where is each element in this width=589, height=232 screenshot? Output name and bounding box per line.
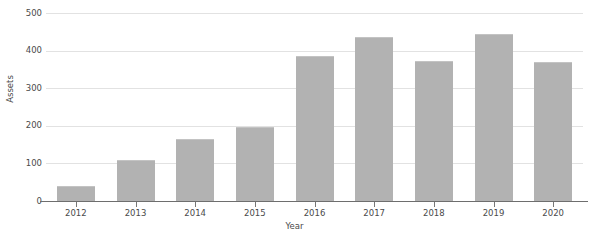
y-axis-tick-label: 400	[8, 46, 42, 55]
bar-chart: Assets 0100200300400500 Year 20122013201…	[0, 0, 589, 232]
bar[interactable]	[57, 186, 95, 201]
x-axis-tick	[255, 202, 256, 207]
x-axis-tick	[434, 202, 435, 207]
bar[interactable]	[236, 127, 274, 201]
x-axis-tick	[315, 202, 316, 207]
bar[interactable]	[534, 62, 572, 201]
y-axis-tick-labels: 0100200300400500	[0, 13, 42, 201]
bar[interactable]	[176, 139, 214, 201]
bar[interactable]	[117, 160, 155, 201]
x-axis-tick-label: 2018	[423, 208, 445, 218]
x-axis-tick	[374, 202, 375, 207]
y-axis-tick-label: 500	[8, 9, 42, 18]
bar[interactable]	[355, 37, 393, 201]
y-axis-tick-label: 100	[8, 159, 42, 168]
y-axis-tick-label: 300	[8, 84, 42, 93]
x-axis-tick-label: 2017	[363, 208, 385, 218]
bar[interactable]	[296, 56, 334, 201]
x-axis-tick	[494, 202, 495, 207]
x-axis-tick	[136, 202, 137, 207]
x-axis-tick-label: 2016	[304, 208, 326, 218]
chart-title	[0, 0, 589, 2]
y-axis-tick-label: 200	[8, 121, 42, 130]
y-axis-tick-label: 0	[8, 197, 42, 206]
x-axis-tick	[76, 202, 77, 207]
x-axis-tick-label: 2015	[244, 208, 266, 218]
x-axis-tick-label: 2013	[125, 208, 147, 218]
bar[interactable]	[415, 61, 453, 201]
bar-series	[46, 13, 583, 201]
x-axis-tick-label: 2014	[184, 208, 206, 218]
x-axis-tick-label: 2019	[483, 208, 505, 218]
x-axis-title: Year	[0, 221, 589, 231]
x-axis-tick-label: 2012	[65, 208, 87, 218]
x-axis-tick-label: 2020	[542, 208, 564, 218]
x-axis-tick	[195, 202, 196, 207]
x-axis-tick	[553, 202, 554, 207]
bar[interactable]	[475, 34, 513, 201]
